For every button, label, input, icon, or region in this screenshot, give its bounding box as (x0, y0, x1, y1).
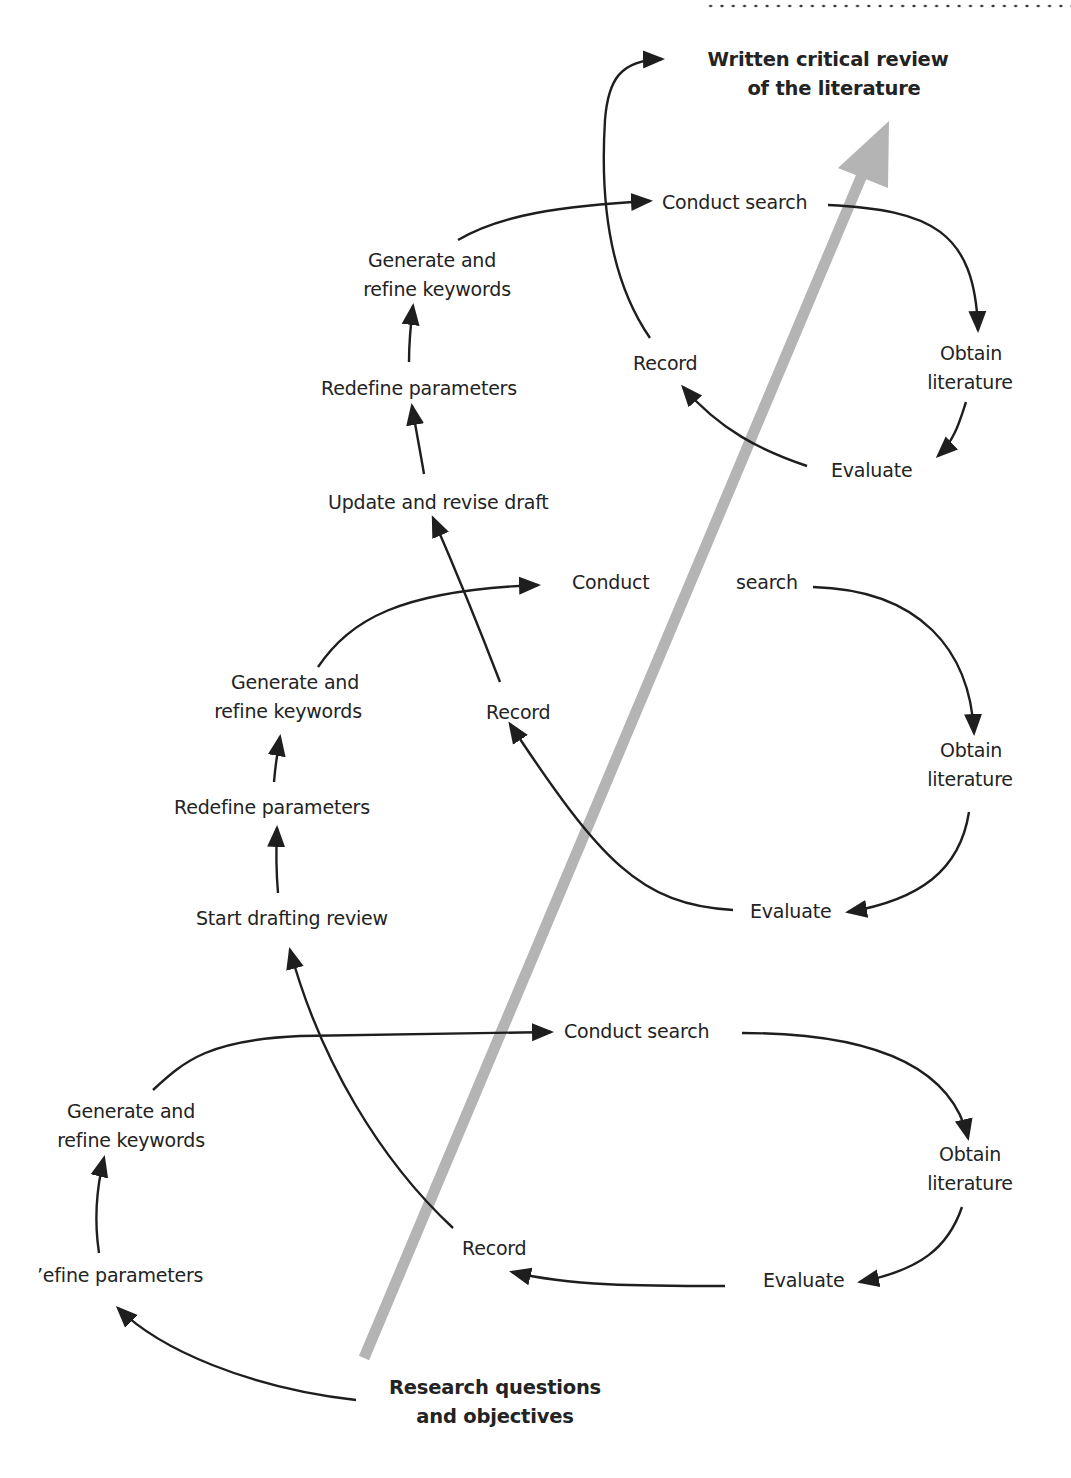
arrow-record-to-written-review (604, 59, 662, 338)
generate-keywords-1-line2: refine keywords (57, 1126, 205, 1155)
arrow-redefine-to-generate-3 (409, 306, 413, 362)
redefine-parameters-2: Redefine parameters (174, 793, 370, 822)
research-questions-label: Research questions (389, 1373, 601, 1402)
header-dotted-rule (705, 4, 1071, 8)
obtain-literature-3-line2: literature (927, 368, 1013, 397)
obtain-literature-1-line2: literature (927, 1169, 1013, 1198)
redefine-parameters-3: Redefine parameters (321, 374, 517, 403)
obtain-literature-2-line1: Obtain (940, 736, 1002, 765)
arrow-redefine-to-generate-2 (274, 737, 280, 782)
generate-keywords-2-line2: refine keywords (214, 697, 362, 726)
arrow-obtain-to-evaluate-3 (938, 402, 966, 456)
start-drafting-review: Start drafting review (196, 904, 388, 933)
generate-keywords-3-line2: refine keywords (363, 275, 511, 304)
arrow-define-to-generate-1 (96, 1158, 104, 1253)
research-questions-label-line2: and objectives (416, 1402, 573, 1431)
arrow-record-to-drafting (290, 950, 453, 1228)
arrow-start-to-define (118, 1308, 356, 1400)
update-revise-draft: Update and revise draft (328, 488, 549, 517)
arrow-obtain-to-evaluate-1 (860, 1207, 962, 1282)
evaluate-2: Evaluate (750, 897, 831, 926)
arrow-search-to-obtain-2 (813, 587, 974, 733)
record-1: Record (462, 1234, 526, 1263)
written-review-label-line2: of the literature (747, 74, 920, 103)
evaluate-1: Evaluate (763, 1266, 844, 1295)
written-review-label: Written critical review (708, 45, 949, 74)
conduct-search-2-word2: search (736, 568, 798, 597)
evaluate-3: Evaluate (831, 456, 912, 485)
obtain-literature-2-line2: literature (927, 765, 1013, 794)
generate-keywords-1-line1: Generate and (67, 1097, 195, 1126)
conduct-search-1: Conduct search (564, 1017, 709, 1046)
obtain-literature-1-line1: Obtain (939, 1140, 1001, 1169)
arrow-generate-to-search-2 (318, 585, 538, 667)
generate-keywords-3-line1: Generate and (368, 246, 496, 275)
arrow-obtain-to-evaluate-2 (848, 812, 969, 912)
flow-arrows (96, 59, 978, 1400)
obtain-literature-3-line1: Obtain (940, 339, 1002, 368)
conduct-search-2-word1: Conduct (572, 568, 650, 597)
arrow-search-to-obtain-3 (828, 205, 978, 330)
record-3: Record (633, 349, 697, 378)
arrow-generate-to-search-3 (458, 201, 650, 240)
arrow-drafting-to-redefine-2 (276, 828, 278, 893)
diagram-canvas (0, 0, 1071, 1478)
arrow-record-to-update (433, 518, 500, 682)
define-parameters-1: ’efine parameters (37, 1261, 203, 1290)
progress-arrowhead-icon (838, 121, 889, 188)
arrow-search-to-obtain-1 (742, 1033, 968, 1138)
arrow-evaluate-to-record-1 (512, 1272, 725, 1286)
generate-keywords-2-line1: Generate and (231, 668, 359, 697)
record-2: Record (486, 698, 550, 727)
conduct-search-3: Conduct search (662, 188, 807, 217)
progress-arrow (364, 121, 889, 1358)
arrow-update-to-redefine-3 (412, 406, 424, 474)
